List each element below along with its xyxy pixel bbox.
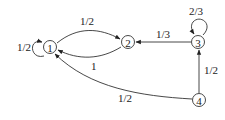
node-4: 4 (193, 94, 206, 107)
edge-3-3 (191, 19, 207, 35)
node-label-2: 2 (125, 37, 131, 49)
edge-label-3-3: 2/3 (189, 5, 204, 17)
node-label-3: 3 (195, 37, 201, 49)
edge-label-2-1: 1 (91, 60, 97, 72)
node-1: 1 (44, 41, 57, 54)
node-2: 2 (122, 36, 135, 49)
edge-label-1-1: 1/2 (17, 41, 31, 53)
node-label-1: 1 (47, 42, 53, 54)
edge-1-1 (32, 42, 44, 57)
edge-1-2 (57, 30, 120, 43)
node-3: 3 (192, 36, 205, 49)
edge-label-4-1: 1/2 (118, 92, 132, 104)
edge-label-4-3: 1/2 (204, 64, 218, 76)
markov-chain-diagram: 1/2 1/2 1 1/3 2/3 1/2 1/2 1 2 3 4 (0, 0, 225, 120)
edge-label-1-2: 1/2 (80, 15, 94, 27)
edge-2-1 (58, 47, 121, 57)
node-label-4: 4 (196, 95, 202, 107)
edge-label-3-2: 1/3 (156, 28, 171, 40)
